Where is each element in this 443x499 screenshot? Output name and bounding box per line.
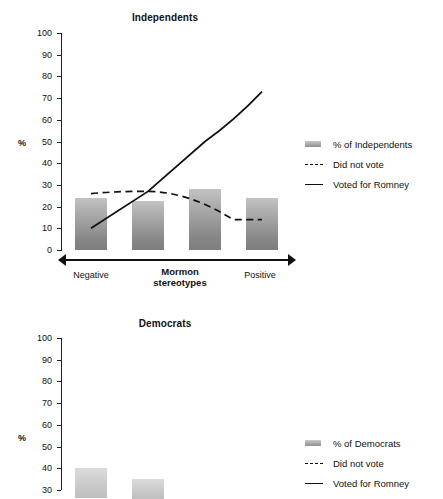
legend-democrats: % of Democrats Did not vote Voted for Ro… [305, 433, 443, 493]
y-tick-mark [57, 490, 61, 491]
legend-label: Did not vote [333, 159, 384, 170]
y-tick-label: 60 [26, 421, 52, 430]
x-category-label-positive: Positive [225, 270, 295, 280]
arrow-head-right-icon [288, 254, 296, 266]
legend-item-pct-democrats[interactable]: % of Democrats [305, 433, 443, 453]
bar-democrats-1 [75, 468, 107, 498]
x-category-label-negative: Negative [56, 270, 126, 280]
chart-panel-democrats: Democrats % 100 90 80 70 60 50 40 30 % o… [0, 300, 443, 490]
y-tick-label: 80 [26, 377, 52, 386]
bar-democrats-2 [132, 479, 164, 499]
y-tick-label: 30 [26, 486, 52, 495]
x-axis-title-line2: stereotypes [135, 277, 225, 288]
x-axis-title-line1: Mormon [135, 266, 225, 277]
chart-panel-independents: Independents % 100 90 80 70 60 50 40 30 … [0, 0, 443, 300]
x-axis-arrow-independents [58, 254, 296, 266]
legend-independents: % of Independents Did not vote Voted for… [305, 134, 443, 194]
dashed-line-icon [305, 158, 327, 170]
y-tick-label: 40 [26, 464, 52, 473]
arrow-shaft [64, 259, 290, 261]
legend-item-did-not-vote[interactable]: Did not vote [305, 453, 443, 473]
y-tick-label: 90 [26, 356, 52, 365]
legend-label: Voted for Romney [333, 179, 409, 190]
legend-label: % of Independents [333, 139, 412, 150]
solid-line-icon [305, 178, 327, 190]
x-axis-title-independents: Mormon stereotypes [135, 266, 225, 288]
legend-label: % of Democrats [333, 438, 401, 449]
legend-item-voted-for-romney[interactable]: Voted for Romney [305, 174, 443, 194]
legend-label: Voted for Romney [333, 478, 409, 489]
bar-swatch-icon [305, 437, 327, 449]
series-voted-for-romney-line [91, 92, 262, 229]
y-tick-label: 70 [26, 399, 52, 408]
solid-line-icon [305, 477, 327, 489]
legend-label: Did not vote [333, 458, 384, 469]
legend-item-pct-independents[interactable]: % of Independents [305, 134, 443, 154]
series-did-not-vote-line [91, 191, 262, 219]
bar-swatch-icon [305, 138, 327, 150]
chart-title-democrats: Democrats [45, 318, 285, 329]
legend-item-voted-for-romney[interactable]: Voted for Romney [305, 473, 443, 493]
legend-item-did-not-vote[interactable]: Did not vote [305, 154, 443, 174]
y-axis-line-democrats [61, 338, 62, 490]
y-tick-label: 100 [26, 334, 52, 343]
y-tick-label: 50 [26, 443, 52, 452]
y-axis-label-democrats: % [18, 433, 26, 443]
dashed-line-icon [305, 457, 327, 469]
